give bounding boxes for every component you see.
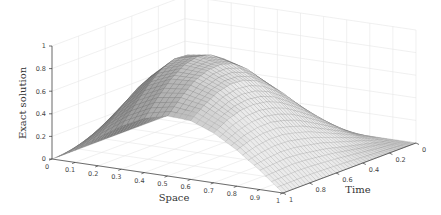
z-tick-label: 0.4 (36, 110, 46, 118)
y-tick-label: 1 (289, 196, 293, 204)
surface-mesh (52, 55, 416, 193)
y-tick-label: 0.6 (342, 176, 352, 184)
z-axis-label: Exact solution (17, 66, 28, 139)
x-tick-label: 0.3 (111, 173, 121, 181)
surface-plot: 00.10.20.30.40.50.60.70.80.9100.20.40.60… (0, 0, 441, 215)
x-tick-label: 0.9 (250, 194, 260, 202)
z-tick-label: 0.8 (36, 65, 46, 73)
x-tick-label: 0.5 (157, 180, 167, 188)
x-tick-label: 0.4 (134, 177, 144, 185)
y-tick-label: 0.4 (369, 166, 379, 174)
y-tick-label: 0 (422, 146, 426, 154)
z-tick-label: 0.6 (36, 88, 46, 96)
x-axis-label: Space (159, 192, 190, 203)
z-tick-label: 0 (42, 155, 46, 163)
z-tick-label: 0.2 (36, 133, 46, 141)
y-tick-label: 0.8 (316, 186, 326, 194)
x-tick-label: 1 (276, 197, 280, 205)
z-tick-label: 1 (42, 42, 46, 50)
y-axis-label: Time (345, 184, 370, 195)
x-tick-label: 0.7 (204, 187, 214, 195)
x-tick-label: 0.2 (88, 170, 98, 178)
x-tick-label: 0 (45, 163, 49, 171)
x-tick-label: 0.6 (180, 183, 190, 191)
x-tick-label: 0.8 (227, 190, 237, 198)
y-tick-label: 0.2 (395, 156, 405, 164)
x-tick-label: 0.1 (65, 166, 75, 174)
